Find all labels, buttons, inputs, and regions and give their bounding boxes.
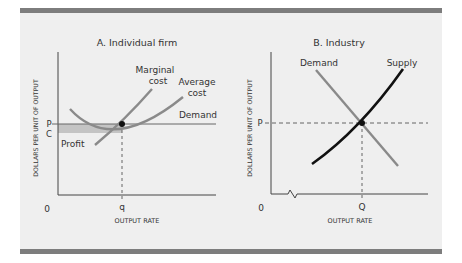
panel-b-demand-label: Demand bbox=[300, 58, 338, 68]
mc-label-line2: cost bbox=[149, 76, 168, 86]
marginal-cost-curve bbox=[95, 89, 152, 145]
supply-curve bbox=[312, 69, 403, 164]
tick-p-a: P bbox=[46, 119, 51, 129]
panel-b-origin: 0 bbox=[258, 203, 264, 213]
profit-label: Profit bbox=[61, 139, 85, 149]
panel-b-y-axis-label: DOLLARS PER UNIT OF OUTPUT bbox=[246, 79, 253, 177]
tick-big-q: Q bbox=[358, 202, 365, 212]
ac-label-line1: Average bbox=[179, 77, 216, 87]
charts-svg: A. Individual firm DOLLARS PER UNIT OF O… bbox=[0, 0, 462, 263]
panel-b-industry: B. Industry DOLLARS PER UNIT OF OUTPUT D… bbox=[246, 37, 428, 225]
mc-label-line1: Marginal bbox=[136, 65, 175, 75]
panel-b-x-axis-with-break bbox=[271, 190, 428, 198]
tick-p-b: P bbox=[257, 118, 262, 128]
supply-label: Supply bbox=[387, 58, 418, 68]
tick-c: C bbox=[46, 129, 52, 139]
panel-a-origin: 0 bbox=[44, 204, 50, 214]
panel-a-equilibrium-point bbox=[119, 121, 125, 127]
panel-b-title: B. Industry bbox=[313, 37, 365, 48]
tick-q: q bbox=[119, 202, 125, 212]
panel-a-y-axis-label: DOLLARS PER UNIT OF OUTPUT bbox=[32, 79, 39, 177]
panel-a-title: A. Individual firm bbox=[97, 37, 178, 48]
panel-b-x-axis-label: OUTPUT RATE bbox=[328, 217, 373, 225]
panel-b-equilibrium-point bbox=[359, 120, 365, 126]
panel-a-demand-label: Demand bbox=[179, 110, 217, 120]
panel-a-individual-firm: A. Individual firm DOLLARS PER UNIT OF O… bbox=[32, 37, 217, 225]
panel-a-x-axis-label: OUTPUT RATE bbox=[115, 217, 160, 225]
ac-label-line2: cost bbox=[188, 88, 207, 98]
